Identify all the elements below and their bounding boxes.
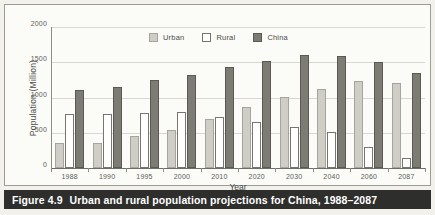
bar-rural-1995[interactable]: [140, 113, 149, 168]
x-tick-1: [88, 168, 89, 172]
x-label-2040: 2040: [313, 173, 350, 180]
y-tick-2000: 2000: [31, 20, 47, 27]
bar-rural-1990[interactable]: [103, 114, 112, 168]
bar-china-1995[interactable]: [150, 80, 159, 168]
x-tick-7: [313, 168, 314, 172]
bar-china-1990[interactable]: [113, 87, 122, 168]
bar-group-2040: [313, 27, 350, 168]
bar-group-1995: [126, 27, 163, 168]
x-tick-8: [350, 168, 351, 172]
x-label-2087: 2087: [388, 173, 425, 180]
bar-china-2000[interactable]: [187, 75, 196, 168]
y-axis-title: Population (Million): [28, 28, 38, 168]
bar-urban-1995[interactable]: [130, 136, 139, 168]
x-label-2000: 2000: [163, 173, 200, 180]
bar-rural-2010[interactable]: [215, 117, 224, 168]
bar-group-2030: [275, 27, 312, 168]
x-label-1995: 1995: [126, 173, 163, 180]
figure-caption-number: Figure 4.9: [12, 194, 63, 206]
bar-urban-1988[interactable]: [55, 143, 64, 168]
x-tick-5: [238, 168, 239, 172]
bar-china-2040[interactable]: [337, 56, 346, 168]
x-tick-6: [275, 168, 276, 172]
bar-urban-2020[interactable]: [242, 107, 251, 168]
bar-rural-2000[interactable]: [177, 112, 186, 168]
bar-group-2060: [350, 27, 387, 168]
bar-rural-2040[interactable]: [327, 132, 336, 168]
bar-urban-2087[interactable]: [392, 83, 401, 168]
x-label-1990: 1990: [88, 173, 125, 180]
bar-groups: [51, 27, 425, 168]
x-tick-4: [201, 168, 202, 172]
bar-group-2020: [238, 27, 275, 168]
bar-urban-2060[interactable]: [354, 81, 363, 168]
bar-rural-2087[interactable]: [402, 158, 411, 168]
bar-china-1988[interactable]: [75, 90, 84, 168]
bar-group-1988: [51, 27, 88, 168]
figure-caption-bar: Figure 4.9 Urban and rural population pr…: [4, 190, 431, 209]
x-tick-2: [126, 168, 127, 172]
bar-rural-1988[interactable]: [65, 114, 74, 168]
x-tick-10: [425, 168, 426, 172]
x-label-2020: 2020: [238, 173, 275, 180]
x-tick-9: [388, 168, 389, 172]
figure-caption-text: Urban and rural population projections f…: [70, 194, 378, 206]
y-axis-title-wrapper: Population (Million): [15, 27, 27, 168]
x-axis-tick-labels: 1988199019952000201020202030204020602087: [51, 173, 425, 180]
bar-group-1990: [88, 27, 125, 168]
figure-container: 2000 1500 1000 500 0 Population (Million…: [0, 0, 435, 215]
bar-urban-1990[interactable]: [93, 143, 102, 168]
x-label-1988: 1988: [51, 173, 88, 180]
bar-group-2087: [388, 27, 425, 168]
x-tick-0: [51, 168, 52, 172]
bar-china-2087[interactable]: [412, 73, 421, 168]
bar-urban-2000[interactable]: [167, 130, 176, 168]
x-tick-3: [163, 168, 164, 172]
chart-card: 2000 1500 1000 500 0 Population (Million…: [4, 4, 431, 186]
bar-china-2030[interactable]: [300, 55, 309, 168]
bar-urban-2040[interactable]: [317, 89, 326, 168]
bar-rural-2060[interactable]: [364, 147, 373, 168]
bar-group-2000: [163, 27, 200, 168]
bar-urban-2030[interactable]: [280, 97, 289, 168]
bar-group-2010: [201, 27, 238, 168]
bar-china-2010[interactable]: [225, 67, 234, 168]
y-tick-0: 0: [43, 161, 47, 168]
x-label-2060: 2060: [350, 173, 387, 180]
bar-china-2060[interactable]: [374, 62, 383, 168]
bar-rural-2020[interactable]: [252, 122, 261, 168]
bar-china-2020[interactable]: [262, 61, 271, 168]
bar-rural-2030[interactable]: [290, 127, 299, 168]
bar-urban-2010[interactable]: [205, 119, 214, 168]
x-label-2010: 2010: [201, 173, 238, 180]
x-label-2030: 2030: [275, 173, 312, 180]
